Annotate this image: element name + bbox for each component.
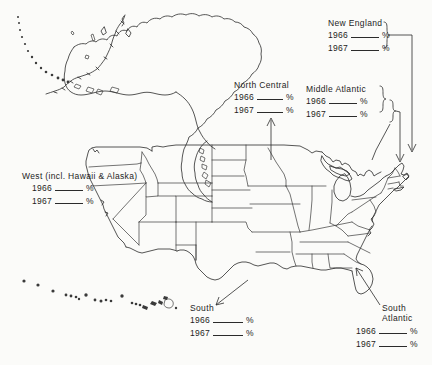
leader-middle-atlantic [396, 111, 400, 160]
year-1966: 1966 [306, 96, 326, 108]
blank-1967[interactable] [257, 104, 283, 113]
label-rows-middle-atlantic: 1966 % 1967 % [306, 95, 368, 120]
brace-middle-atlantic-inner [390, 100, 396, 122]
percent-1966: % [410, 326, 418, 338]
year-1967: 1967 [328, 43, 348, 55]
brace-middle-atlantic [380, 86, 386, 112]
blank-1966[interactable] [329, 95, 357, 104]
label-row-1966: 1966 % [32, 182, 137, 195]
label-rows-west: 1966 % 1967 % [22, 182, 137, 207]
label-title-middle-atlantic: Middle Atlantic [306, 84, 368, 95]
label-group-south: South 1966 % 1967 % [190, 303, 254, 339]
leader-middle-atlantic-diagonal [372, 124, 390, 160]
percent-1967: % [360, 109, 368, 121]
label-title-north-central: North Central [234, 80, 294, 91]
label-row-1966: 1966 % [234, 91, 294, 104]
contiguous-us-outline [86, 145, 409, 294]
label-title-new-england: New England [328, 18, 390, 29]
label-row-1966: 1966 % [356, 325, 418, 338]
year-1966: 1966 [328, 30, 348, 42]
percent-1966: % [360, 96, 368, 108]
blank-1966[interactable] [351, 29, 379, 38]
label-group-new-england: New England 1966 % 1967 % [328, 18, 390, 54]
label-row-1967: 1967 % [32, 195, 137, 208]
blank-1966[interactable] [55, 182, 83, 191]
blank-1967[interactable] [329, 108, 357, 117]
percent-1967: % [246, 328, 254, 340]
label-title-west: West (incl. Hawaii & Alaska) [22, 171, 137, 182]
label-rows-new-england: 1966 % 1967 % [328, 29, 390, 54]
label-rows-south-atlantic: 1966 % 1967 % [356, 325, 418, 350]
percent-1966: % [86, 183, 94, 195]
percent-1967: % [286, 105, 294, 117]
blank-1967[interactable] [55, 195, 83, 204]
year-1967: 1967 [306, 109, 326, 121]
year-1967: 1967 [190, 328, 210, 340]
label-title-south: South [190, 303, 254, 314]
leader-new-england [390, 35, 412, 150]
worksheet-map-figure: New England 1966 % 1967 % Middle Atlanti… [0, 0, 432, 365]
label-row-1967: 1967 % [234, 104, 294, 117]
hawaii-outline [22, 279, 177, 310]
year-1966: 1966 [32, 183, 52, 195]
label-group-middle-atlantic: Middle Atlantic 1966 % 1967 % [306, 84, 368, 120]
blank-1967[interactable] [351, 42, 379, 51]
year-1966: 1966 [234, 92, 254, 104]
label-row-1966: 1966 % [306, 95, 368, 108]
label-group-west: West (incl. Hawaii & Alaska) 1966 % 1967… [22, 171, 137, 207]
percent-1966: % [382, 30, 390, 42]
year-1966: 1966 [356, 326, 376, 338]
label-title-south-atlantic-line2: Atlantic [382, 313, 413, 323]
year-1967: 1967 [234, 105, 254, 117]
percent-1967: % [382, 43, 390, 55]
blank-1967[interactable] [213, 327, 243, 336]
label-rows-south: 1966 % 1967 % [190, 314, 254, 339]
leader-south-atlantic [356, 268, 380, 305]
leader-south [216, 280, 248, 305]
percent-1966: % [246, 315, 254, 327]
year-1966: 1966 [190, 315, 210, 327]
blank-1966[interactable] [213, 314, 243, 323]
year-1967: 1967 [32, 196, 52, 208]
blank-1966[interactable] [257, 91, 283, 100]
label-group-south-atlantic: South Atlantic 1966 % 1967 % [382, 303, 413, 323]
label-title-south-atlantic-line1: South [382, 303, 413, 313]
percent-1967: % [86, 196, 94, 208]
label-row-1967: 1967 % [328, 42, 390, 55]
blank-1967[interactable] [379, 338, 407, 347]
label-row-1967: 1967 % [190, 327, 254, 340]
label-group-north-central: North Central 1966 % 1967 % [234, 80, 294, 116]
percent-1967: % [410, 339, 418, 351]
label-row-1966: 1966 % [328, 29, 390, 42]
percent-1966: % [286, 92, 294, 104]
label-row-1967: 1967 % [306, 108, 368, 121]
label-rows-north-central: 1966 % 1967 % [234, 91, 294, 116]
blank-1966[interactable] [379, 325, 407, 334]
label-row-1966: 1966 % [190, 314, 254, 327]
label-row-1967: 1967 % [356, 338, 418, 351]
year-1967: 1967 [356, 339, 376, 351]
